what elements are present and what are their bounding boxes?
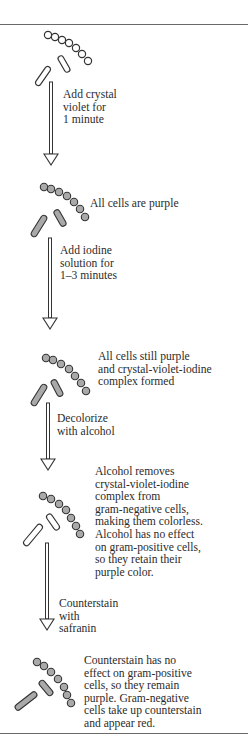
arrow-step-3-icon — [41, 403, 55, 470]
stage-4-caption: Alcohol removes crystal-violet-iodine co… — [95, 466, 203, 579]
bacilli-icon — [14, 679, 54, 711]
stage-3-cells — [30, 354, 90, 406]
stage-3-caption: All cells still purple and crystal-viole… — [98, 351, 212, 389]
stage-1-cells — [34, 31, 91, 86]
cocci-chain-icon — [40, 183, 88, 220]
step-3-label: Decolorize with alcohol — [57, 413, 115, 438]
stage-4-cells — [22, 492, 83, 547]
cocci-chain-icon — [44, 31, 91, 64]
arrow-step-1-icon — [44, 82, 58, 165]
arrow-step-4-icon — [40, 543, 54, 630]
stage-5-cells — [14, 658, 75, 711]
stage-2-cells — [30, 183, 89, 237]
cocci-chain-icon — [39, 492, 83, 537]
bacilli-icon — [30, 209, 67, 238]
arrow-step-2-icon — [43, 238, 57, 329]
cocci-chain-icon — [42, 354, 89, 394]
stage-5-caption: Counterstain has no effect on gram-posit… — [84, 655, 202, 731]
bacilli-icon — [22, 513, 60, 547]
step-2-label: Add iodine solution for 1–3 minutes — [60, 245, 117, 283]
step-1-label: Add crystal violet for 1 minute — [63, 89, 117, 127]
stage-2-caption: All cells are purple — [90, 198, 179, 211]
step-4-label: Counterstain with safranin — [59, 598, 118, 636]
